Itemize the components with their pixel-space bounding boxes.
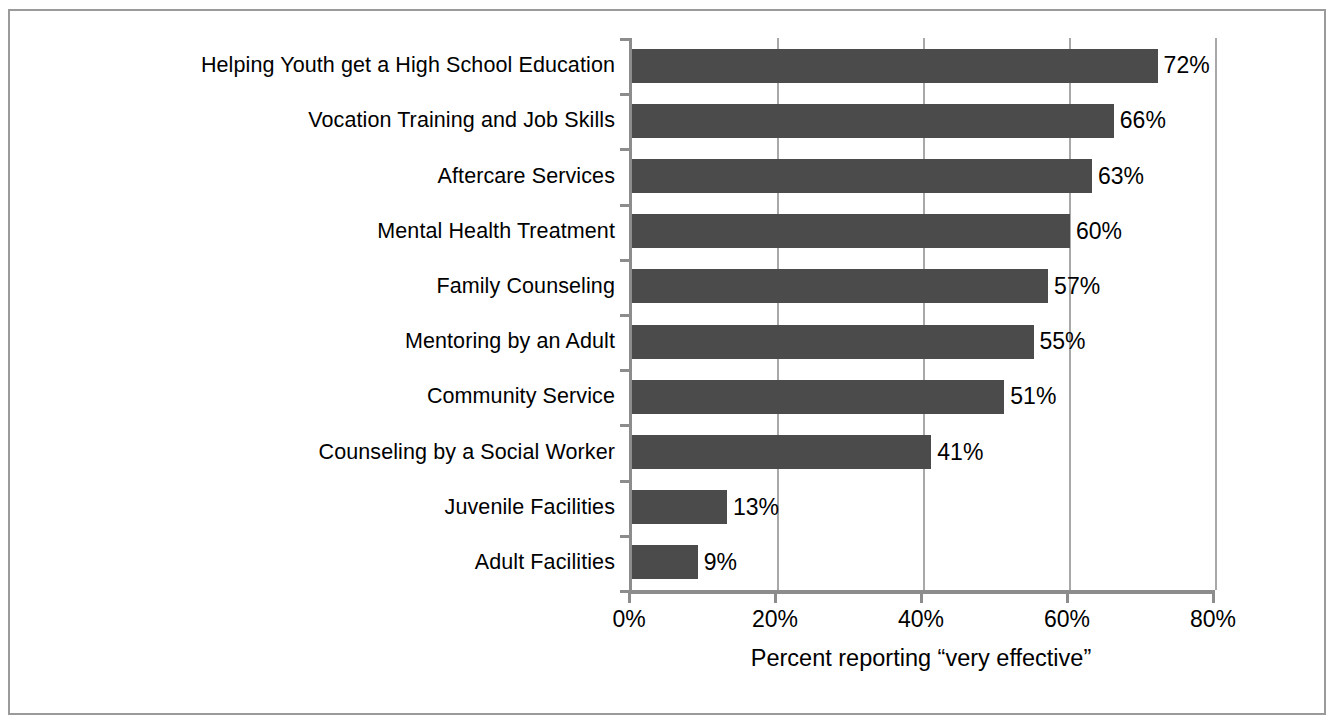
category-tick (620, 259, 630, 262)
bar-value-label: 60% (1076, 220, 1122, 243)
x-tick-40 (920, 590, 923, 603)
bar-row: 55% (632, 314, 1213, 369)
category-tick (620, 38, 630, 41)
x-tick-label: 80% (1190, 606, 1236, 633)
category-label: Counseling by a Social Worker (319, 440, 615, 465)
category-label-row: Family Counseling (60, 259, 623, 314)
bar-value-label: 13% (733, 496, 779, 519)
bar-value-label: 57% (1054, 275, 1100, 298)
category-tick (620, 314, 630, 317)
bar (632, 325, 1034, 359)
category-label-row: Juvenile Facilities (60, 480, 623, 535)
category-label: Helping Youth get a High School Educatio… (201, 53, 615, 78)
category-tick (620, 535, 630, 538)
bar-row: 60% (632, 204, 1213, 259)
category-label-row: Community Service (60, 369, 623, 424)
x-tick-label: 0% (612, 606, 645, 633)
horizontal-bar-chart: Helping Youth get a High School Educatio… (0, 0, 1334, 724)
category-label-row: Mental Health Treatment (60, 204, 623, 259)
bar (632, 104, 1114, 138)
bar-series: 72%66%63%60%57%55%51%41%13%9% (632, 38, 1213, 590)
x-axis-title: Percent reporting “very effective” (629, 645, 1213, 672)
chart-page: Helping Youth get a High School Educatio… (0, 0, 1334, 724)
category-label: Mental Health Treatment (377, 219, 615, 244)
category-tick (620, 480, 630, 483)
category-tick (620, 369, 630, 372)
bar (632, 269, 1048, 303)
bar-value-label: 55% (1040, 330, 1086, 353)
category-label: Family Counseling (436, 274, 615, 299)
bar-row: 13% (632, 480, 1213, 535)
bar (632, 380, 1004, 414)
bar (632, 159, 1092, 193)
x-tick-label: 20% (752, 606, 798, 633)
bar-value-label: 9% (704, 551, 737, 574)
bar-value-label: 66% (1120, 109, 1166, 132)
x-tick-label: 60% (1044, 606, 1090, 633)
category-label: Community Service (427, 384, 615, 409)
bar (632, 49, 1158, 83)
bar-value-label: 41% (937, 441, 983, 464)
category-tick (620, 204, 630, 207)
x-tick-60 (1066, 590, 1069, 603)
category-label-row: Adult Facilities (60, 535, 623, 590)
bar-value-label: 72% (1164, 54, 1210, 77)
category-label: Mentoring by an Adult (405, 329, 615, 354)
category-label: Juvenile Facilities (445, 495, 615, 520)
category-label: Aftercare Services (438, 164, 615, 189)
x-tick-0 (628, 590, 631, 603)
x-tick-20 (774, 590, 777, 603)
plot-area: 72%66%63%60%57%55%51%41%13%9% (629, 38, 1213, 590)
bar-row: 63% (632, 148, 1213, 203)
bar-value-label: 63% (1098, 165, 1144, 188)
bar (632, 214, 1070, 248)
category-label: Vocation Training and Job Skills (308, 108, 615, 133)
category-tick (620, 148, 630, 151)
bar-row: 41% (632, 424, 1213, 479)
category-label: Adult Facilities (475, 550, 615, 575)
bar-row: 66% (632, 93, 1213, 148)
bar-row: 9% (632, 535, 1213, 590)
bar-row: 72% (632, 38, 1213, 93)
bar (632, 490, 727, 524)
category-tick (620, 93, 630, 96)
category-label-row: Helping Youth get a High School Educatio… (60, 38, 623, 93)
bar-row: 57% (632, 259, 1213, 314)
category-label-row: Aftercare Services (60, 148, 623, 203)
category-axis-labels: Helping Youth get a High School Educatio… (60, 38, 623, 590)
x-tick-label: 40% (898, 606, 944, 633)
bar-row: 51% (632, 369, 1213, 424)
gridline-80 (1215, 38, 1217, 590)
category-label-row: Mentoring by an Adult (60, 314, 623, 369)
bar (632, 545, 698, 579)
x-tick-80 (1212, 590, 1215, 603)
category-label-row: Counseling by a Social Worker (60, 424, 623, 479)
bar-value-label: 51% (1010, 385, 1056, 408)
bar (632, 435, 931, 469)
category-label-row: Vocation Training and Job Skills (60, 93, 623, 148)
category-tick (620, 424, 630, 427)
